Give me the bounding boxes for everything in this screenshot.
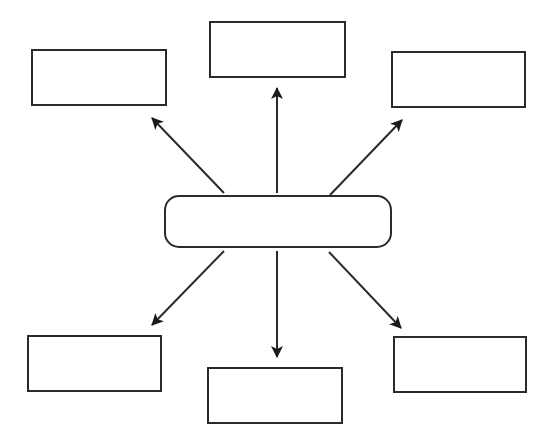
node-bottom-right[interactable]	[393, 336, 527, 393]
node-top-left[interactable]	[31, 49, 167, 106]
arrow-to-top-left	[152, 118, 224, 193]
center-node[interactable]	[164, 195, 392, 248]
node-bottom-center[interactable]	[207, 367, 343, 424]
arrow-to-top-right	[330, 120, 402, 195]
node-top-center[interactable]	[209, 21, 346, 78]
arrow-to-bottom-left	[152, 251, 224, 325]
node-top-right[interactable]	[391, 51, 526, 108]
node-bottom-left[interactable]	[27, 335, 162, 392]
arrow-to-bottom-right	[329, 252, 401, 328]
